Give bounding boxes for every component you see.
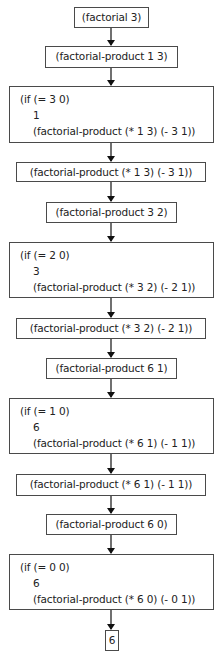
if-alternative: (factorial-product (* 1 3) (- 3 1)) [20, 123, 213, 139]
node-recursive-call-2: (factorial-product (* 3 2) (- 2 1)) [16, 318, 206, 339]
node-result: 6 [105, 630, 119, 651]
if-condition: (if (= 3 0) [20, 91, 213, 107]
node-text: (factorial-product 6 1) [56, 362, 168, 374]
node-text: (factorial-product 6 0) [56, 518, 168, 530]
node-text: (factorial-product 1 3) [56, 50, 168, 62]
if-condition: (if (= 1 0) [20, 403, 213, 419]
node-factorial-product-6-0: (factorial-product 6 0) [46, 514, 177, 535]
if-consequent: 6 [20, 575, 213, 591]
node-if-expansion-4: (if (= 0 0) 6 (factorial-product (* 6 0)… [9, 554, 214, 610]
if-consequent: 6 [20, 419, 213, 435]
result-value: 6 [109, 634, 116, 646]
node-if-expansion-1: (if (= 3 0) 1 (factorial-product (* 1 3)… [9, 86, 214, 143]
if-alternative: (factorial-product (* 6 1) (- 1 1)) [20, 435, 213, 451]
if-condition: (if (= 0 0) [20, 559, 213, 575]
node-text: (factorial-product 3 2) [56, 206, 168, 218]
node-if-expansion-3: (if (= 1 0) 6 (factorial-product (* 6 1)… [9, 398, 214, 454]
if-alternative: (factorial-product (* 6 0) (- 0 1)) [20, 591, 213, 607]
node-factorial-product-6-1: (factorial-product 6 1) [46, 358, 177, 379]
node-text: (factorial-product (* 3 2) (- 2 1)) [30, 322, 192, 334]
node-text: (factorial 3) [82, 11, 141, 23]
if-condition: (if (= 2 0) [20, 247, 213, 263]
node-text: (factorial-product (* 1 3) (- 3 1)) [30, 166, 192, 178]
if-alternative: (factorial-product (* 3 2) (- 2 1)) [20, 279, 213, 295]
evaluation-trace-diagram: (factorial 3) (factorial-product 1 3) (i… [0, 0, 222, 659]
node-recursive-call-1: (factorial-product (* 1 3) (- 3 1)) [16, 162, 206, 182]
node-factorial-call: (factorial 3) [74, 7, 149, 28]
if-consequent: 3 [20, 263, 213, 279]
node-recursive-call-3: (factorial-product (* 6 1) (- 1 1)) [16, 474, 206, 496]
node-factorial-product-3-2: (factorial-product 3 2) [46, 202, 177, 223]
if-consequent: 1 [20, 107, 213, 123]
node-if-expansion-2: (if (= 2 0) 3 (factorial-product (* 3 2)… [9, 242, 214, 298]
node-text: (factorial-product (* 6 1) (- 1 1)) [30, 478, 192, 490]
node-factorial-product-1-3: (factorial-product 1 3) [45, 46, 178, 68]
